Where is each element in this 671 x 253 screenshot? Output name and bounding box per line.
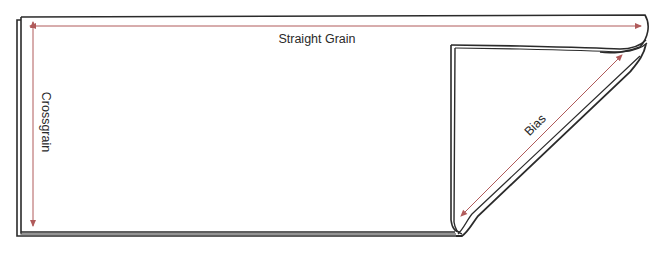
fabric-back-layer	[17, 20, 458, 236]
crossgrain-label: Crossgrain	[39, 92, 53, 152]
bias-label: Bias	[522, 112, 549, 139]
fabric-grain-diagram: Straight Grain Crossgrain Bias	[0, 0, 671, 253]
bias-arrow	[461, 55, 622, 216]
straight-grain-label: Straight Grain	[278, 32, 355, 46]
fabric-outline	[21, 15, 648, 236]
